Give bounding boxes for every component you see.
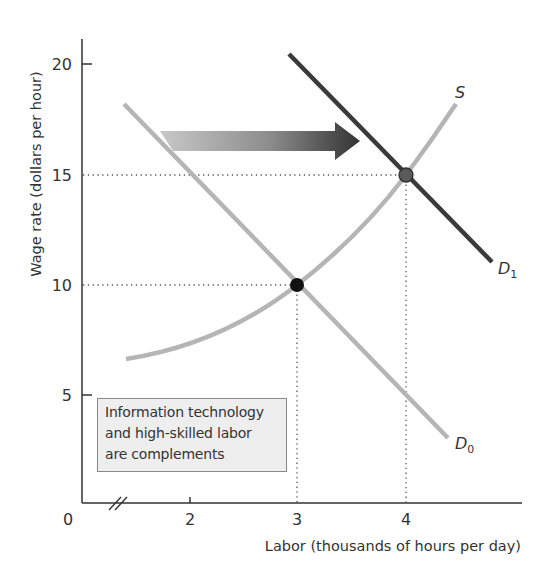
d0-label-subscript: 0 <box>467 443 474 456</box>
note-line-2: and high-skilled labor <box>105 423 286 444</box>
y-tick-label-5: 5 <box>62 386 72 405</box>
x-axis-title: Labor (thousands of hours per day) <box>265 538 521 554</box>
equilibrium-point-initial <box>290 278 304 292</box>
d1-label-subscript: 1 <box>510 268 517 281</box>
origin-label: 0 <box>63 510 73 529</box>
y-axis-title: Wage rate (dollars per hour) <box>28 71 44 276</box>
note-line-1: Information technology <box>105 402 286 423</box>
equilibrium-point-new <box>399 168 413 182</box>
y-tick-label-15: 15 <box>52 166 72 185</box>
d0-label: D0 <box>455 434 474 456</box>
annotation-note-box: Information technology and high-skilled … <box>97 398 287 472</box>
y-tick-label-10: 10 <box>52 276 72 295</box>
x-tick-label-2: 2 <box>185 510 195 529</box>
supply-label: S <box>455 83 465 102</box>
d1-label-main: D <box>498 259 510 278</box>
y-tick-label-20: 20 <box>52 55 72 74</box>
demand-curve-d0 <box>124 104 448 438</box>
demand-shift-arrow-icon <box>160 122 360 160</box>
x-tick-label-3: 3 <box>292 510 302 529</box>
x-tick-label-4: 4 <box>401 510 411 529</box>
chart-canvas: 20 15 10 5 0 2 3 4 Labor (thousands of h… <box>0 0 554 580</box>
d1-label: D1 <box>498 259 517 281</box>
note-line-3: are complements <box>105 444 286 465</box>
d0-label-main: D <box>455 434 467 453</box>
